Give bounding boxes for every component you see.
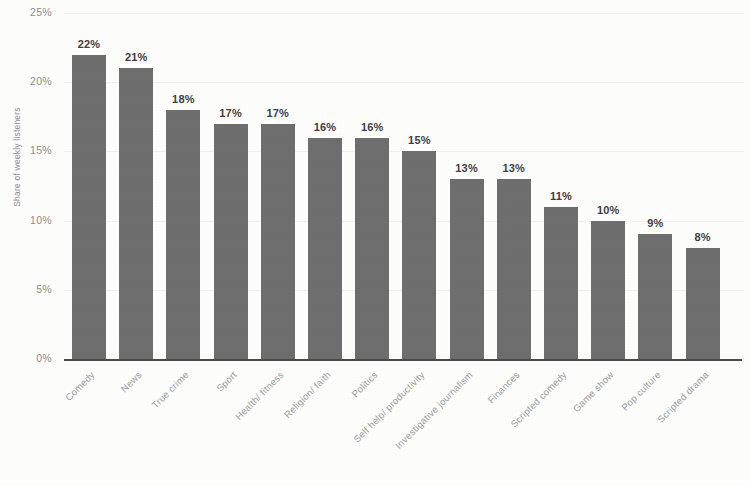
bar-value-label: 11% <box>534 190 588 202</box>
bar[interactable] <box>544 207 578 359</box>
bar[interactable] <box>450 179 484 359</box>
bar[interactable] <box>497 179 531 359</box>
bar-value-label: 10% <box>581 204 635 216</box>
bar-value-label: 22% <box>62 38 116 50</box>
y-tick-label: 0% <box>14 352 52 364</box>
bar-value-label: 17% <box>251 107 305 119</box>
category-label: Scripted comedy <box>476 369 569 462</box>
y-tick-label: 5% <box>14 283 52 295</box>
category-label: Scripted drama <box>618 369 711 462</box>
plot-area: 25%20%15%10%5%0% 22%21%18%17%17%16%16%15… <box>0 0 750 486</box>
category-label: Finances <box>429 369 522 462</box>
bar-value-label: 13% <box>440 162 494 174</box>
bar-value-label: 21% <box>109 51 163 63</box>
bar[interactable] <box>402 151 436 359</box>
bar[interactable] <box>261 124 295 359</box>
bar[interactable] <box>166 110 200 359</box>
category-label: Comedy <box>4 369 97 462</box>
bar-value-label: 13% <box>487 162 541 174</box>
category-label: Politics <box>287 369 380 462</box>
category-label: True crime <box>99 369 192 462</box>
bar[interactable] <box>308 138 342 359</box>
bar-value-label: 16% <box>345 121 399 133</box>
bar-value-label: 17% <box>204 107 258 119</box>
category-label: Religion/ faith <box>240 369 333 462</box>
bar-value-label: 16% <box>298 121 352 133</box>
gridline-20 <box>64 82 744 83</box>
bar[interactable] <box>591 221 625 359</box>
category-label: Self help/ productivity <box>335 369 428 462</box>
category-label: Investigative journalism <box>382 369 475 462</box>
y-axis-title: Share of weekly listeners <box>12 62 22 252</box>
bar-chart: 25%20%15%10%5%0% 22%21%18%17%17%16%16%15… <box>0 0 750 486</box>
bar[interactable] <box>214 124 248 359</box>
category-label: Game show <box>523 369 616 462</box>
bar-value-label: 8% <box>676 231 730 243</box>
category-label: Pop culture <box>571 369 664 462</box>
bar-value-label: 9% <box>628 217 682 229</box>
bar-value-label: 15% <box>392 134 446 146</box>
category-label: Sport <box>146 369 239 462</box>
x-axis-line <box>64 359 742 361</box>
bar[interactable] <box>638 234 672 359</box>
gridline-25 <box>64 13 744 14</box>
bar[interactable] <box>119 68 153 359</box>
bar[interactable] <box>355 138 389 359</box>
bar-value-label: 18% <box>156 93 210 105</box>
bar[interactable] <box>686 248 720 359</box>
category-label: News <box>51 369 144 462</box>
category-label: Health/ fitness <box>193 369 286 462</box>
bar[interactable] <box>72 55 106 359</box>
y-tick-label: 25% <box>14 6 52 18</box>
